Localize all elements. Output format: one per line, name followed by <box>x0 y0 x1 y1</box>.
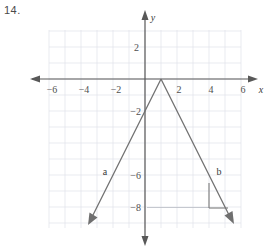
x-tick-label-4: 4 <box>209 84 214 95</box>
y-tick-label-2: 2 <box>134 42 139 53</box>
curve-label-a: a <box>103 166 108 177</box>
x-tick-label-2: 2 <box>177 84 182 95</box>
problem-number-label: 14. <box>4 4 21 16</box>
coordinate-plane-svg: −6 −4 −2 2 4 6 2 −2 −6 −8 x y a b <box>0 0 280 250</box>
y-axis-label: y <box>150 12 156 23</box>
y-tick-label-neg8: −8 <box>130 202 141 213</box>
y-tick-label-neg6: −6 <box>130 170 141 181</box>
y-axis-arrow-up <box>142 10 149 20</box>
line-b-arrowhead <box>225 211 235 224</box>
y-tick-labels: 2 −2 −6 −8 <box>130 42 141 213</box>
x-axis-arrow-left <box>30 76 40 83</box>
x-tick-labels: −6 −4 −2 2 4 6 <box>47 84 246 95</box>
x-tick-label-6: 6 <box>241 84 246 95</box>
x-tick-label-neg6: −6 <box>47 84 58 95</box>
line-a <box>92 79 162 218</box>
x-tick-label-neg4: −4 <box>79 84 90 95</box>
graph-figure: 14. <box>0 0 280 250</box>
x-axis-arrow-right <box>248 76 258 83</box>
x-tick-label-neg2: −2 <box>111 84 122 95</box>
y-axis-arrow-down <box>142 236 149 246</box>
y-tick-label-neg2: −2 <box>130 106 141 117</box>
line-b <box>161 79 230 216</box>
x-axis-label: x <box>258 84 264 95</box>
curve-label-b: b <box>217 166 222 177</box>
